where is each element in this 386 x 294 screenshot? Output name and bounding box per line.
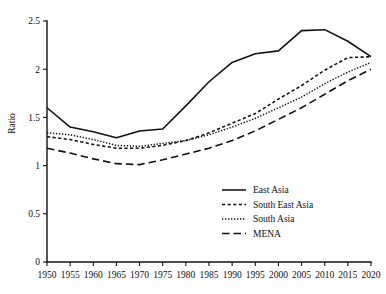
y-axis-title: Ratio — [7, 113, 17, 134]
x-tick-label: 2005 — [292, 270, 311, 280]
chart-figure: 00.511.522.51950195519601965197019751980… — [0, 0, 386, 294]
x-tick-label: 1995 — [246, 270, 265, 280]
series-line-mena — [47, 69, 371, 164]
chart-legend: East AsiaSouth East AsiaSouth AsiaMENA — [222, 185, 314, 239]
y-tick-label: 2 — [35, 65, 40, 75]
y-tick-label: 2.5 — [28, 16, 40, 26]
legend-label-south-east-asia: South East Asia — [253, 200, 314, 210]
line-chart: 00.511.522.51950195519601965197019751980… — [0, 0, 386, 294]
x-tick-label: 1970 — [130, 270, 149, 280]
y-tick-label: 1 — [35, 161, 40, 171]
series-line-east-asia — [47, 30, 371, 138]
x-tick-label: 1980 — [176, 270, 195, 280]
series-line-south-east-asia — [47, 57, 371, 149]
legend-label-east-asia: East Asia — [253, 185, 289, 195]
series-line-south-asia — [47, 62, 371, 146]
x-tick-label: 2000 — [269, 270, 288, 280]
y-tick-label: 0.5 — [28, 209, 40, 219]
x-tick-label: 1990 — [223, 270, 242, 280]
axes-group: 00.511.522.51950195519601965197019751980… — [7, 16, 381, 280]
x-tick-label: 1975 — [153, 270, 172, 280]
x-tick-label: 1965 — [107, 270, 126, 280]
legend-label-mena: MENA — [253, 229, 281, 239]
x-tick-label: 1950 — [38, 270, 57, 280]
x-tick-label: 2010 — [315, 270, 334, 280]
x-tick-label: 1960 — [84, 270, 103, 280]
y-tick-label: 1.5 — [28, 113, 40, 123]
y-tick-label: 0 — [35, 257, 40, 267]
x-tick-label: 2015 — [338, 270, 357, 280]
x-tick-label: 2020 — [362, 270, 381, 280]
legend-label-south-asia: South Asia — [253, 214, 295, 224]
series-group — [47, 30, 371, 165]
x-tick-label: 1955 — [61, 270, 80, 280]
x-tick-label: 1985 — [200, 270, 219, 280]
